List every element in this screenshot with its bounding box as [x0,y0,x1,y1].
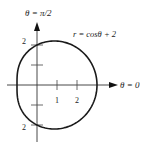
axis-arrow-up-icon [34,22,40,31]
axis-arrow-right-icon [109,82,118,88]
equation-label: r = cosθ + 2 [73,30,116,39]
y-tick-label-bottom: 2 [22,124,26,132]
x-tick-label-2: 2 [75,97,79,105]
x-tick-label-1: 1 [55,97,59,105]
theta-zero-label: θ = 0 [120,81,140,90]
y-tick-label-top: 2 [22,38,26,46]
theta-pi-over-2-label: θ = π/2 [25,9,52,18]
